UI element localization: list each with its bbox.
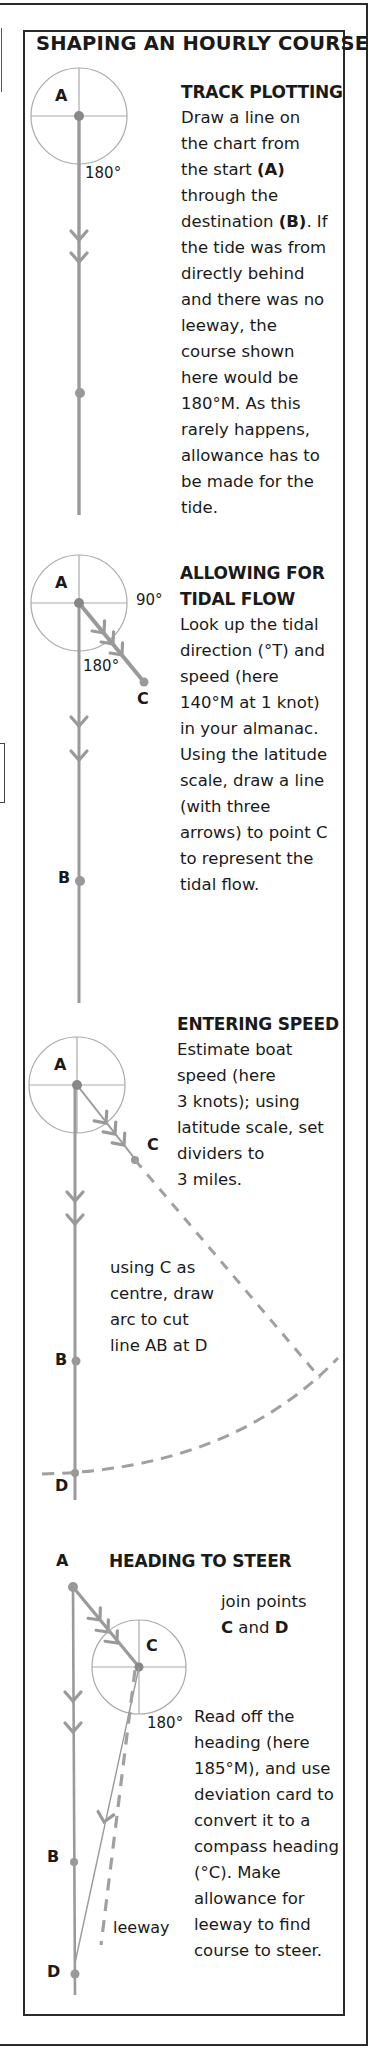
point-d-label-4: D [47,1962,60,1981]
point-b-marker-1 [75,388,85,398]
section-heading: ENTERING SPEED [177,1011,339,1037]
point-c-label-3: C [147,1135,159,1154]
point-a-label-4: A [56,1551,68,1570]
speed-arc-dashed [42,1358,338,1474]
join-points-note: join points C and D [221,1589,307,1641]
point-b-label-4: B [47,1847,59,1866]
angle-label-180-4: 180° [147,1714,183,1732]
point-a-label-1: A [55,86,67,105]
point-a-label-3: A [54,1055,66,1074]
point-c-label-4: C [146,1636,158,1655]
point-b-marker-2 [75,876,85,886]
point-d-label-3: D [55,1476,68,1495]
point-a-marker-4 [68,1582,78,1592]
point-a-marker-1 [74,111,84,121]
arc-instruction-note: using C as centre, draw arc to cut line … [110,1255,214,1359]
section-heading-to-steer-body: Read off the heading (here 185°M), and u… [194,1704,339,1964]
section-heading-to-steer: HEADING TO STEER [109,1548,291,1574]
point-b-marker-4 [70,1858,78,1866]
point-d-marker-3 [71,1469,79,1477]
angle-label-90: 90° [136,591,163,609]
point-b-marker-3 [72,1357,81,1366]
section-entering-speed: ENTERING SPEED Estimate boat speed (here… [177,1011,339,1193]
point-d-marker-4 [71,1970,80,1979]
point-b-label-3: B [55,1350,67,1369]
section-heading: TRACK PLOTTING [181,79,343,105]
tide-vector-4 [73,1587,139,1667]
point-c-marker-2 [140,678,149,687]
track-line-4 [73,1587,75,1995]
section-track-plotting: TRACK PLOTTING Draw a line on the chart … [181,79,343,521]
point-b-label-2: B [58,868,70,887]
angle-label-180-2: 180° [83,657,119,675]
point-a-label-2: A [55,573,67,592]
leeway-label: leeway [113,1918,170,1937]
angle-label-180-1: 180° [85,164,121,182]
point-c-label-2: C [137,689,149,708]
section-allowing-for-tidal-flow: ALLOWING FOR TIDAL FLOW Look up the tida… [180,560,328,898]
section-heading: ALLOWING FOR [180,560,328,586]
